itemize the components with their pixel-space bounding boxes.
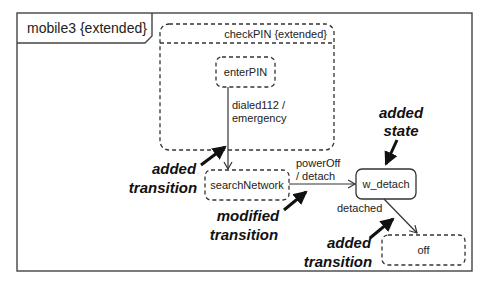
transition-detached[interactable]: detached bbox=[337, 199, 417, 233]
state-w_detach-label: w_detach bbox=[361, 178, 409, 190]
annotation-added-transition-2: added transition bbox=[304, 219, 393, 270]
state-searchNetwork[interactable]: searchNetwork bbox=[205, 170, 289, 200]
state-off-label: off bbox=[417, 244, 430, 256]
transition-label-line1: dialed112 / bbox=[232, 99, 286, 111]
transition-label-line2: / detach bbox=[296, 170, 335, 182]
state-off[interactable]: off bbox=[382, 235, 465, 265]
annotation-line2: transition bbox=[129, 179, 197, 196]
transition-label-line2: emergency bbox=[232, 112, 287, 124]
annotation-line2: state bbox=[383, 122, 418, 139]
state-machine-diagram: mobile3 {extended} checkPIN {extended} e… bbox=[0, 0, 488, 285]
annotation-line1: modified bbox=[217, 207, 280, 224]
state-searchNetwork-label: searchNetwork bbox=[210, 179, 284, 191]
state-enterPIN[interactable]: enterPIN bbox=[216, 57, 275, 87]
transition-label-line1: detached bbox=[337, 202, 382, 214]
state-w_detach[interactable]: w_detach bbox=[356, 169, 416, 199]
annotation-added-state: added state bbox=[379, 104, 424, 164]
annotation-line1: added bbox=[379, 104, 424, 121]
transition-label-line1: powerOff bbox=[296, 157, 341, 169]
annotation-line1: added bbox=[327, 234, 372, 251]
annotation-line2: transition bbox=[210, 226, 278, 243]
transition-powerOff[interactable]: powerOff / detach bbox=[289, 157, 355, 184]
state-enterPIN-label: enterPIN bbox=[224, 66, 267, 78]
annotation-line1: added bbox=[152, 160, 197, 177]
state-checkPIN-label: checkPIN {extended} bbox=[224, 28, 327, 40]
annotation-line2: transition bbox=[304, 253, 372, 270]
annotation-arrow-icon bbox=[386, 140, 397, 164]
frame-title: mobile3 {extended} bbox=[27, 20, 147, 36]
